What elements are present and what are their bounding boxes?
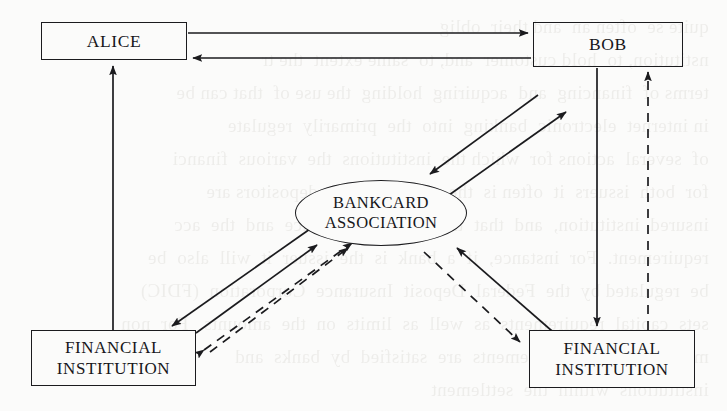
node-bob[interactable]: BOB — [533, 22, 683, 67]
node-bob-label: BOB — [589, 34, 627, 55]
node-bankcard-association-label-line2: ASSOCIATION — [325, 213, 438, 233]
node-alice-label: ALICE — [87, 31, 142, 52]
edge-assoc-to-bob — [442, 112, 566, 200]
node-alice[interactable]: ALICE — [41, 22, 187, 60]
node-financial-institution-left-label-line2: INSTITUTION — [57, 358, 170, 379]
edge-fileft-to-assoc-dashed-head — [210, 248, 348, 352]
edge-assoc-to-firight — [424, 252, 520, 342]
node-financial-institution-left-label-line1: FINANCIAL — [57, 337, 170, 358]
node-bankcard-association-label-line1: BANKCARD — [325, 193, 438, 213]
node-financial-institution-right[interactable]: FINANCIAL INSTITUTION — [529, 330, 695, 388]
edge-fileft-to-assoc — [196, 245, 317, 333]
node-financial-institution-right-label-line2: INSTITUTION — [555, 359, 668, 380]
edge-firight-to-assoc — [457, 248, 552, 331]
node-financial-institution-right-label-line1: FINANCIAL — [555, 338, 668, 359]
edge-assoc-to-fileft-dashed — [204, 243, 352, 350]
node-financial-institution-left[interactable]: FINANCIAL INSTITUTION — [31, 330, 196, 386]
node-bankcard-association[interactable]: BANKCARD ASSOCIATION — [295, 180, 467, 246]
edge-bob-to-assoc — [430, 95, 538, 174]
edge-assoc-to-fileft — [172, 229, 310, 326]
diagram-canvas: quite se often an and their oblig nstitu… — [0, 0, 727, 411]
